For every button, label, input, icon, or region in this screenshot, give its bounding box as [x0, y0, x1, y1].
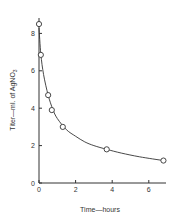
data-point [161, 158, 166, 163]
y-axis-label: Titer—ml. of AgNO3 [9, 69, 18, 130]
data-point [46, 93, 51, 98]
y-tick-label: 6 [31, 67, 35, 74]
data-point [60, 124, 65, 129]
x-ticks: 0246 [37, 180, 151, 193]
data-point [38, 52, 43, 57]
x-tick-label: 4 [110, 186, 114, 193]
data-point [104, 147, 109, 152]
y-axis-label-subscript: 3 [12, 69, 18, 72]
y-tick-label: 8 [31, 30, 35, 37]
fitted-curve [39, 28, 163, 161]
data-point [36, 21, 41, 26]
y-axis-label-main: Titer—ml. of AgNO [9, 72, 17, 131]
y-tick-label: 2 [31, 142, 35, 149]
data-points [36, 21, 166, 163]
x-tick-label: 6 [147, 186, 151, 193]
x-axis-label: Time—hours [80, 206, 120, 213]
x-tick-label: 2 [74, 186, 78, 193]
y-tick-label: 0 [31, 180, 35, 187]
x-tick-label: 0 [37, 186, 41, 193]
data-point [49, 107, 54, 112]
y-tick-label: 4 [31, 105, 35, 112]
titer-vs-time-chart: 0246 02468 Time—hours Titer—ml. of AgNO3 [0, 0, 189, 223]
